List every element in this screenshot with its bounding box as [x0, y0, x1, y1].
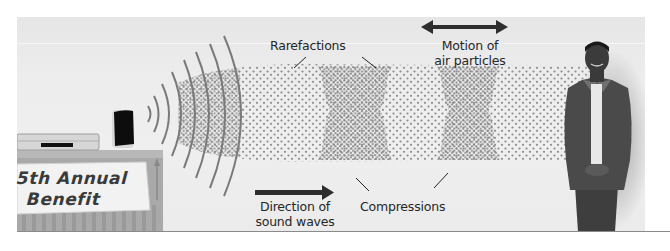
direction-label-line1: Direction of — [245, 199, 345, 214]
motion-label-line2: air particles — [425, 53, 515, 68]
motion-label: Motion of air particles — [425, 38, 515, 68]
banner-line1: 5th Annual — [16, 168, 128, 188]
motion-label-line1: Motion of — [425, 38, 515, 53]
compressions-label: Compressions — [360, 199, 445, 214]
right-arrow-icon — [255, 185, 334, 200]
stereo-speaker-icon — [112, 110, 134, 148]
rarefactions-label: Rarefactions — [270, 38, 346, 53]
direction-label-line2: sound waves — [245, 214, 345, 229]
direction-label: Direction of sound waves — [245, 199, 345, 229]
banner-line2: Benefit — [26, 189, 101, 209]
double-headed-arrow-icon — [421, 20, 508, 34]
